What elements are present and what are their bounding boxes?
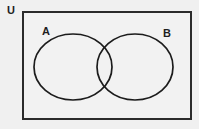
- set-b-label: B: [163, 27, 171, 39]
- diagram-canvas: U A B: [0, 0, 199, 129]
- universe-label: U: [7, 4, 15, 16]
- venn-diagram: U A B: [0, 0, 199, 129]
- set-a-label: A: [42, 25, 50, 37]
